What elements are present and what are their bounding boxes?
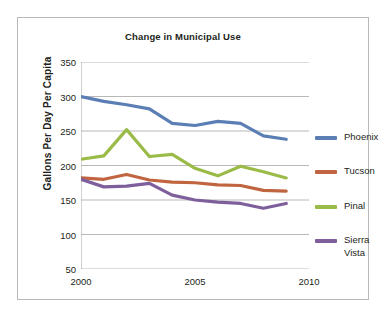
x-tick-label: 2005 [184,276,205,287]
legend-label: Pinal [344,200,365,213]
y-tick-label: 50 [65,264,76,275]
y-tick-label: 300 [60,91,76,102]
legend-item-pinal[interactable]: Pinal [315,200,365,213]
chart-title: Change in Municipal Use [58,31,308,42]
y-tick-label: 200 [60,160,76,171]
y-axis-label: Gallons Per Day Per Capita [42,39,53,209]
legend-swatch-icon [315,239,337,243]
x-tick-label: 2000 [70,276,91,287]
x-tick-label: 2010 [298,276,319,287]
series-line-pinal [81,130,286,178]
series-line-tucson [81,174,286,191]
chart-frame: Change in Municipal Use Gallons Per Day … [17,17,369,300]
legend-swatch-icon [315,205,337,209]
chart-figure: Change in Municipal Use Gallons Per Day … [0,0,388,317]
legend-item-tucson[interactable]: Tucson [315,165,375,178]
series-line-phoenix [81,97,286,140]
y-tick-label: 100 [60,229,76,240]
legend-swatch-icon [315,136,337,140]
plot-area: 50100150200250300350 200020052010 [81,62,309,269]
legend-item-phoenix[interactable]: Phoenix [315,131,378,144]
y-tick-label: 250 [60,126,76,137]
legend-label: Tucson [344,165,375,178]
y-tick-label: 150 [60,195,76,206]
line-chart-svg [81,62,309,269]
legend-label: Sierra Vista [344,234,369,259]
legend-swatch-icon [315,170,337,174]
legend-label: Phoenix [344,131,378,144]
y-tick-label: 350 [60,57,76,68]
legend-item-sierra-vista[interactable]: Sierra Vista [315,234,369,259]
